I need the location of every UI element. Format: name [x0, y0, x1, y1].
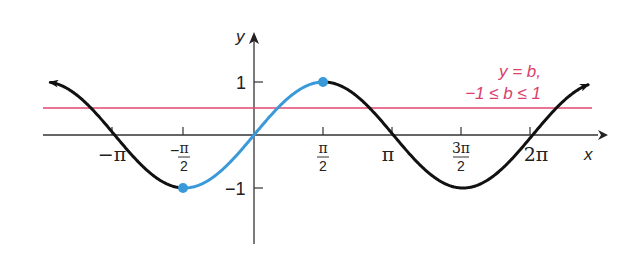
annotation-b-range: −1 ≤ b ≤ 1: [465, 84, 541, 103]
x-axis-label: x: [583, 145, 593, 164]
endpoint-max-dot: [318, 77, 328, 87]
x-tick-three-pi-half: 3π 2: [452, 140, 470, 174]
x-tick-neg-pi-half: − π 2: [170, 140, 190, 174]
svg-text:−: −: [170, 142, 179, 159]
x-ticks: [112, 127, 530, 135]
svg-text:π: π: [179, 140, 188, 156]
x-tick-pi: π: [382, 143, 395, 165]
y-tick-neg1: −1: [225, 179, 246, 199]
svg-text:2: 2: [319, 158, 327, 174]
x-axis-arrow-icon: [598, 130, 608, 140]
svg-text:π: π: [318, 140, 327, 156]
x-tick-neg-pi: −π: [98, 143, 126, 165]
y-tick-1: 1: [236, 73, 246, 93]
svg-text:3π: 3π: [452, 140, 470, 156]
endpoint-min-dot: [178, 183, 188, 193]
x-tick-two-pi: 2π: [524, 143, 549, 165]
sine-chart: y x 1 −1 −π − π 2 π 2 π 3π 2 2π y = b, −…: [0, 0, 627, 254]
x-tick-pi-half: π 2: [317, 140, 329, 174]
svg-text:2: 2: [180, 158, 188, 174]
y-axis-label: y: [235, 27, 246, 46]
svg-text:2: 2: [457, 158, 465, 174]
annotation-y-equals-b: y = b,: [498, 62, 541, 81]
